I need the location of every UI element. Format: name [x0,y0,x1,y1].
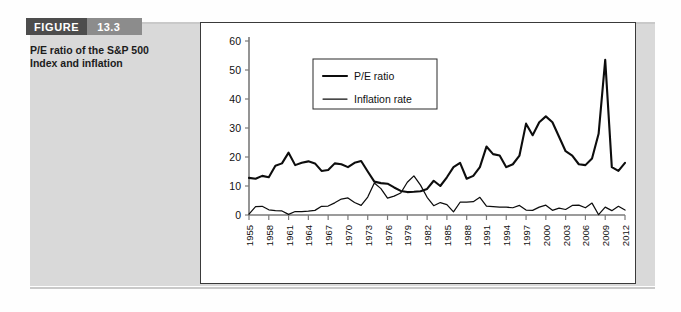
x-tick-label: 1964 [303,225,314,246]
x-tick-label: 1994 [501,225,512,246]
x-tick-label: 1997 [521,225,532,246]
x-tick-label: 1967 [323,225,334,246]
figure-number: 13.3 [87,18,142,35]
x-tick-label: 2006 [580,225,591,246]
figure-caption-line-2: Index and inflation [30,57,190,70]
y-tick-label: 40 [229,93,241,105]
y-tick-label: 50 [229,64,241,76]
x-tick-label: 1976 [383,225,394,246]
y-tick-label: 20 [229,151,241,163]
x-tick-label: 2009 [600,225,611,246]
x-tick-label: 1961 [284,225,295,246]
x-tick-label: 2000 [541,225,552,246]
figure-caption-line-1: P/E ratio of the S&P 500 [30,44,190,57]
x-tick-label: 1991 [481,225,492,246]
series-line-inflation-rate [249,176,625,215]
y-tick-label: 60 [229,35,241,47]
figure-page: FIGURE 13.3 P/E ratio of the S&P 500 Ind… [0,0,681,312]
x-tick-label: 1955 [244,225,255,246]
legend-label-2: Inflation rate [354,93,412,105]
x-tick-label: 2003 [561,225,572,246]
line-chart: 0102030405060 19551958196119641967197019… [201,23,637,285]
legend-label-1: P/E ratio [354,70,394,82]
x-tick-label: 1988 [462,225,473,246]
x-tick-label: 1982 [422,225,433,246]
chart-container: 0102030405060 19551958196119641967197019… [200,22,636,284]
x-tick-label: 1985 [442,225,453,246]
figure-caption: P/E ratio of the S&P 500 Index and infla… [30,44,190,70]
figure-label: FIGURE [26,18,87,35]
y-tick-label: 10 [229,180,241,192]
y-tick-label: 30 [229,122,241,134]
x-tick-label: 2012 [620,225,631,246]
y-tick-label: 0 [235,209,241,221]
x-axis: 1955195819611964196719701973197619791982… [244,215,631,246]
x-tick-label: 1973 [363,225,374,246]
x-tick-label: 1979 [402,225,413,246]
x-tick-label: 1970 [343,225,354,246]
page-rule-bottom [30,287,655,289]
figure-header: FIGURE 13.3 [26,18,142,35]
y-axis: 0102030405060 [229,35,249,221]
chart-legend: P/E ratioInflation rate [313,59,437,109]
x-tick-label: 1958 [264,225,275,246]
